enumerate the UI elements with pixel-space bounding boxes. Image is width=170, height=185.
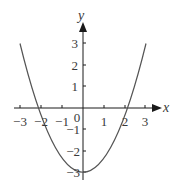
x-axis-label: x [162, 100, 170, 115]
y-tick-label: −3 [66, 165, 80, 180]
x-tick-label: 2 [122, 114, 129, 129]
y-tick-label: 3 [72, 36, 79, 51]
y-axis-label: y [76, 8, 85, 23]
y-tick-label: 1 [72, 79, 79, 94]
x-axis-arrow-icon [152, 104, 162, 112]
parabola-chart: −3 −2 −1 0 1 2 3 3 2 1 −1 −2 −3 x y [0, 0, 170, 185]
x-tick-label: −2 [34, 114, 48, 129]
y-tick-label: −1 [66, 122, 80, 137]
y-tick-label: 2 [72, 58, 79, 73]
y-tick-label: −2 [66, 144, 80, 159]
x-tick-label: −3 [13, 114, 27, 129]
x-tick-label: 3 [142, 114, 149, 129]
x-tick-label: 1 [101, 114, 108, 129]
y-axis-arrow-icon [79, 22, 87, 32]
